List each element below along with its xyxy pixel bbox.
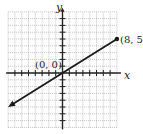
x-axis-label: x [124,69,131,82]
coordinate-plane: y x (0, 0) (8, 5) [0,0,143,134]
endpoint-label: (8, 5) [120,34,143,45]
axes [6,8,121,130]
y-axis-label: y [55,1,63,14]
origin-label: (0, 0) [35,59,62,70]
data-line [8,37,119,107]
